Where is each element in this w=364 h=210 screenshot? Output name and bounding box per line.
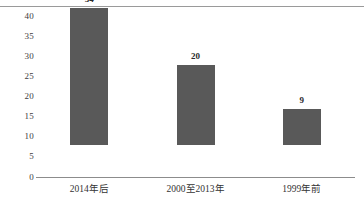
- x-axis-category-label: 1999年前: [242, 184, 362, 195]
- x-axis-category-label: 2014年后: [29, 184, 149, 195]
- bar[interactable]: [70, 8, 108, 145]
- y-axis-tick-label: 20: [8, 92, 34, 101]
- bar-chart-figure: 0510152025303540 34209 2014年后2000至2013年1…: [0, 0, 364, 210]
- y-axis: 0510152025303540: [0, 0, 34, 210]
- y-axis-tick-label: 35: [8, 32, 34, 41]
- y-axis-tick-label: 40: [8, 12, 34, 21]
- bar-group: 20: [177, 0, 215, 145]
- x-axis-category-label: 2000至2013年: [136, 184, 256, 195]
- bar[interactable]: [177, 65, 215, 146]
- bar-group: 9: [283, 0, 321, 145]
- y-axis-tick-label: 25: [8, 72, 34, 81]
- y-axis-tick-label: 5: [8, 152, 34, 161]
- bar-value-label: 9: [271, 96, 333, 105]
- plot-area: 34209: [36, 16, 355, 178]
- y-axis-tick-label: 15: [8, 112, 34, 121]
- bar-group: 34: [70, 0, 108, 145]
- y-axis-tick-label: 10: [8, 132, 34, 141]
- y-axis-tick-label: 0: [8, 173, 34, 182]
- y-axis-tick-label: 30: [8, 52, 34, 61]
- bar-value-label: 20: [165, 52, 227, 61]
- bar[interactable]: [283, 109, 321, 145]
- bar-value-label: 34: [58, 0, 120, 4]
